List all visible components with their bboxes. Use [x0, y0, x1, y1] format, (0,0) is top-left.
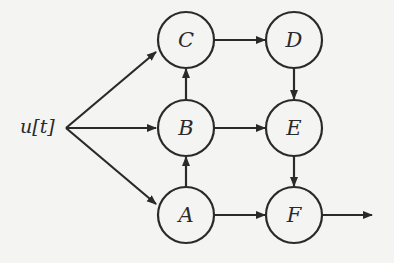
node-C-label: C: [158, 12, 214, 68]
node-B-label: B: [158, 100, 214, 156]
node-F-label: F: [266, 187, 322, 243]
node-E-label: E: [266, 100, 322, 156]
edge-u-to-C: [66, 52, 156, 128]
input-label: u[t]: [20, 115, 55, 137]
node-D-label: D: [266, 12, 322, 68]
node-A-label: A: [158, 187, 214, 243]
edge-u-to-A: [66, 128, 156, 204]
